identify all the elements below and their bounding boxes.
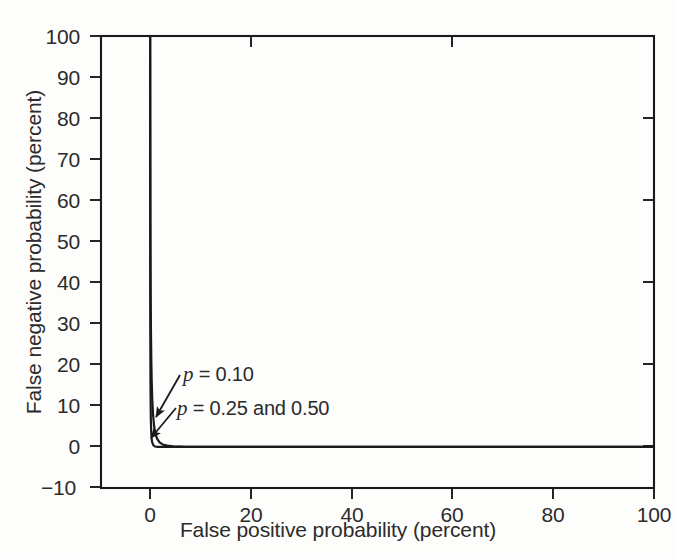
annotation-p-symbol: p: [177, 396, 187, 420]
x-axis-title: False positive probability (percent): [0, 518, 676, 542]
plot-canvas: [0, 0, 676, 559]
annotation-p-value: = 0.25 and 0.50: [187, 397, 329, 419]
annotation-label-p-0-25-and-0-50: p = 0.25 and 0.50: [177, 396, 329, 421]
x-axis-ticks-top: [251, 36, 452, 47]
y-axis-ticks: [90, 36, 101, 487]
x-axis-ticks: [150, 488, 654, 499]
annotation-p-symbol: p: [183, 362, 193, 386]
chart-figure: 100 90 80 70 60 50 40 30 20 10 0 −10 0 2…: [0, 0, 676, 559]
y-tick-label: −10: [6, 476, 76, 500]
annotation-label-p-0-10: p = 0.10: [183, 362, 254, 387]
y-axis-title: False negative probability (percent): [22, 42, 46, 462]
annotation-p-value: = 0.10: [193, 363, 253, 385]
y-axis-ticks-right: [643, 118, 654, 446]
